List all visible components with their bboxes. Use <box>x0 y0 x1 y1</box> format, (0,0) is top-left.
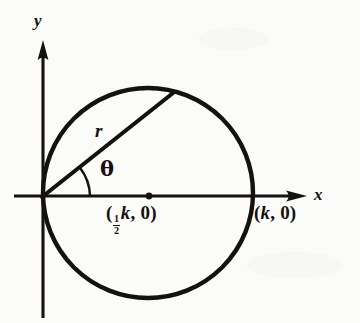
x-axis-label: x <box>314 186 323 203</box>
theta-label: θ <box>100 158 114 179</box>
vertex-label-rest: , 0) <box>270 202 296 223</box>
diagram-canvas <box>0 0 360 323</box>
polar-circle-figure: y x r θ (12k, 0) (k, 0) <box>0 0 360 323</box>
center-label-variable: k <box>121 202 131 223</box>
center-point-marker <box>146 193 153 200</box>
y-axis-label: y <box>34 12 42 29</box>
y-axis-arrowhead <box>38 40 49 60</box>
radius-line <box>42 93 173 197</box>
vertex-label-variable: k <box>261 202 271 223</box>
x-axis-arrowhead <box>286 190 307 201</box>
vertex-point-label: (k, 0) <box>254 203 296 222</box>
fraction-denominator: 2 <box>113 225 120 236</box>
center-point-label: (12k, 0) <box>106 203 157 236</box>
one-half-fraction: 12 <box>113 214 120 236</box>
center-label-open: ( <box>106 202 113 223</box>
angle-arc <box>80 167 90 196</box>
radius-label: r <box>95 121 102 140</box>
fraction-numerator: 1 <box>113 214 120 224</box>
center-label-rest: , 0) <box>131 202 157 223</box>
